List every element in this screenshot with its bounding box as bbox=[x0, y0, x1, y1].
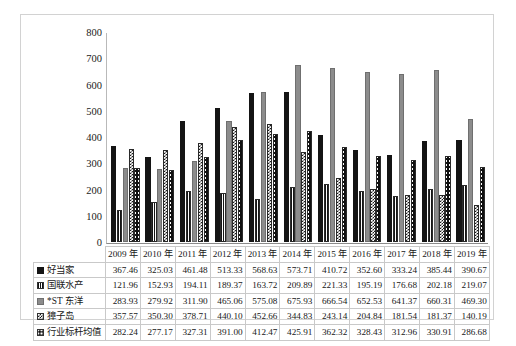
table-cell-value: 121.96 bbox=[106, 278, 141, 294]
table-header-year: 2014 年 bbox=[280, 247, 315, 263]
table-cell-value: 283.93 bbox=[106, 293, 141, 309]
bar bbox=[267, 124, 272, 242]
table-cell-value: 385.44 bbox=[420, 262, 455, 278]
table-header-year: 2009 年 bbox=[106, 247, 141, 263]
table-cell-value: 140.19 bbox=[454, 309, 489, 325]
bar bbox=[204, 157, 209, 243]
table-cell-value: 425.91 bbox=[280, 324, 315, 340]
bar-group bbox=[384, 33, 419, 242]
data-table: 2009 年2010 年2011 年2012 年2013 年2014 年2015… bbox=[33, 246, 490, 341]
table-cell-value: 282.24 bbox=[106, 324, 141, 340]
bar-group bbox=[246, 33, 281, 242]
table-cell-value: 204.84 bbox=[350, 309, 385, 325]
bar bbox=[129, 149, 134, 242]
table-cell-value: 568.63 bbox=[245, 262, 280, 278]
checkered-square-icon bbox=[37, 313, 44, 320]
table-cell-value: 325.03 bbox=[140, 262, 175, 278]
bar bbox=[295, 65, 300, 242]
bar bbox=[163, 150, 168, 242]
table-cell-value: 675.93 bbox=[280, 293, 315, 309]
y-axis-tick-label: 100 bbox=[86, 212, 102, 223]
table-cell-value: 440.10 bbox=[210, 309, 245, 325]
gray-square-icon bbox=[37, 298, 44, 305]
bar bbox=[215, 108, 220, 242]
table-header-year: 2019 年 bbox=[454, 247, 489, 263]
bar bbox=[226, 121, 231, 242]
bar bbox=[422, 141, 427, 242]
table-corner-cell bbox=[34, 247, 106, 263]
bar bbox=[353, 150, 358, 242]
table-cell-value: 350.30 bbox=[140, 309, 175, 325]
legend-item: *ST 东洋 bbox=[34, 293, 106, 309]
bar bbox=[284, 92, 289, 242]
table-cell-value: 367.46 bbox=[106, 262, 141, 278]
bar bbox=[238, 140, 243, 242]
table-cell-value: 243.14 bbox=[315, 309, 350, 325]
table-header-year: 2010 年 bbox=[140, 247, 175, 263]
bar bbox=[405, 195, 410, 242]
legend-item-label: 獐子岛 bbox=[47, 311, 74, 321]
table-row: *ST 东洋283.93279.92311.90465.06575.08675.… bbox=[34, 293, 490, 309]
table-cell-value: 641.37 bbox=[385, 293, 420, 309]
table-cell-value: 163.72 bbox=[245, 278, 280, 294]
bar bbox=[393, 196, 398, 242]
bar-groups bbox=[108, 33, 488, 242]
plot-inner: 8007006005004003002001000 bbox=[106, 33, 488, 244]
bar-group bbox=[281, 33, 316, 242]
legend-item: 国联水产 bbox=[34, 278, 106, 294]
bar bbox=[365, 72, 370, 242]
y-axis-tick-label: 600 bbox=[86, 80, 102, 91]
bar-group bbox=[108, 33, 143, 242]
table-cell-value: 465.06 bbox=[210, 293, 245, 309]
y-axis-tick-label: 300 bbox=[86, 159, 102, 170]
bar bbox=[169, 170, 174, 242]
table-cell-value: 209.89 bbox=[280, 278, 315, 294]
bar bbox=[376, 156, 381, 242]
table-cell-value: 189.37 bbox=[210, 278, 245, 294]
bar bbox=[198, 143, 203, 242]
bar bbox=[307, 131, 312, 242]
bar-group bbox=[143, 33, 178, 242]
bar-group bbox=[315, 33, 350, 242]
bar bbox=[290, 187, 295, 242]
table-row: 行业标杆均值282.24277.17327.31391.00412.47425.… bbox=[34, 324, 490, 340]
table-cell-value: 221.33 bbox=[315, 278, 350, 294]
bar bbox=[151, 202, 156, 242]
bar-group bbox=[419, 33, 454, 242]
bar bbox=[192, 161, 197, 242]
table-cell-value: 573.71 bbox=[280, 262, 315, 278]
table-cell-value: 660.31 bbox=[420, 293, 455, 309]
table-cell-value: 194.11 bbox=[175, 278, 210, 294]
vertical-stripe-square-icon bbox=[37, 282, 44, 289]
bar bbox=[474, 205, 479, 242]
diamond-dot-square-icon bbox=[37, 329, 44, 336]
bar bbox=[180, 121, 185, 242]
y-axis-tick-label: 800 bbox=[86, 28, 102, 39]
bar bbox=[145, 157, 150, 242]
bar bbox=[439, 195, 444, 242]
table-cell-value: 181.37 bbox=[420, 309, 455, 325]
table-cell-value: 461.48 bbox=[175, 262, 210, 278]
table-cell-value: 333.24 bbox=[385, 262, 420, 278]
bar bbox=[301, 152, 306, 242]
legend-item: 獐子岛 bbox=[34, 309, 106, 325]
y-axis-tick-label: 400 bbox=[86, 133, 102, 144]
table-cell-value: 202.18 bbox=[420, 278, 455, 294]
table-cell-value: 327.31 bbox=[175, 324, 210, 340]
legend-item-label: 国联水产 bbox=[47, 280, 83, 290]
bar-group bbox=[453, 33, 488, 242]
bar bbox=[468, 119, 473, 242]
bar bbox=[249, 93, 254, 242]
table-row: 好当家367.46325.03461.48513.33568.63573.714… bbox=[34, 262, 490, 278]
bar bbox=[399, 74, 404, 242]
table-cell-value: 357.57 bbox=[106, 309, 141, 325]
bar bbox=[370, 189, 375, 243]
y-axis-tick-label: 500 bbox=[86, 107, 102, 118]
table-cell-value: 344.83 bbox=[280, 309, 315, 325]
bar bbox=[318, 135, 323, 242]
table-cell-value: 352.60 bbox=[350, 262, 385, 278]
bar-group bbox=[177, 33, 212, 242]
bar bbox=[220, 193, 225, 242]
table-header-year: 2015 年 bbox=[315, 247, 350, 263]
legend-item: 行业标杆均值 bbox=[34, 324, 106, 340]
